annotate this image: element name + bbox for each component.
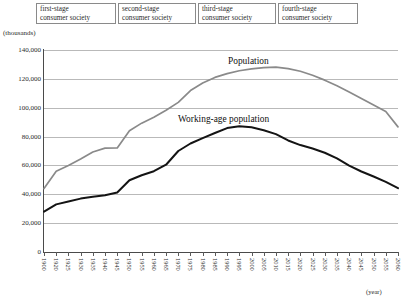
x-tick-label: 1995 [236,258,243,271]
x-tick-label: 1925 [65,258,72,271]
y-tick-label: 60,000 [22,161,41,169]
x-tick-label: 2010 [272,258,279,271]
x-tick [129,252,130,256]
x-tick [68,252,69,256]
x-tick-label: 1935 [89,258,96,271]
x-tick-label: 2045 [358,258,365,271]
x-tick [325,252,326,256]
x-tick [227,252,228,256]
stage-label-line-1: second-stage [122,5,192,14]
x-tick-label: 2035 [333,258,340,271]
x-axis-line [43,252,399,253]
x-tick [386,252,387,256]
series-label-population: Population [228,56,269,66]
x-tick-label: 1950 [126,258,133,271]
x-tick-label: 1975 [187,258,194,271]
x-tick [361,252,362,256]
series-line-population [44,67,398,188]
x-tick-label: 2020 [297,258,304,271]
x-tick-label: 2025 [309,258,316,271]
x-tick-label: 2060 [395,258,402,271]
x-tick [215,252,216,256]
stage-box-second-stage-consumer-society: second-stageconsumer society [118,3,196,24]
stage-box-first-stage-consumer-society: first-stageconsumer society [36,3,116,24]
consumer-society-stage-bar: first-stageconsumer societysecond-stagec… [0,0,409,26]
x-tick [93,252,94,256]
x-tick [252,252,253,256]
x-tick [264,252,265,256]
x-tick-label: 1945 [114,258,121,271]
y-tick-label: 40,000 [22,190,41,198]
x-tick-label: 2040 [346,258,353,271]
y-tick-label: 140,000 [18,46,41,54]
x-tick [117,252,118,256]
x-tick [142,252,143,256]
x-tick [81,252,82,256]
series-container [44,50,398,252]
stage-label-line-1: fourth-stage [282,5,354,14]
x-tick-label: 1900 [41,258,48,271]
series-line-working-age-population [44,126,398,211]
x-tick-label: 2030 [321,258,328,271]
x-tick-label: 1970 [175,258,182,271]
x-tick [337,252,338,256]
x-tick [288,252,289,256]
x-tick-label: 2005 [260,258,267,271]
x-tick [398,252,399,256]
y-tick-label: 0 [38,248,42,256]
x-tick-label: 1990 [224,258,231,271]
y-tick-label: 100,000 [18,104,41,112]
y-axis-labels: 020,00040,00060,00080,000100,000120,0001… [0,0,41,305]
x-tick-label: 2015 [285,258,292,271]
x-tick [349,252,350,256]
x-tick [166,252,167,256]
x-tick-label: 1955 [138,258,145,271]
y-tick-label: 80,000 [22,133,41,141]
stage-box-fourth-stage-consumer-society: fourth-stageconsumer society [278,3,358,24]
stage-label-line-2: consumer society [40,14,112,23]
x-tick [239,252,240,256]
stage-label-line-2: consumer society [202,14,272,23]
x-axis-unit-label: (year) [366,288,382,295]
x-tick-label: 1960 [150,258,157,271]
x-tick [203,252,204,256]
x-tick-label: 2000 [248,258,255,271]
x-tick-label: 1940 [102,258,109,271]
x-tick [300,252,301,256]
x-tick-label: 1985 [211,258,218,271]
x-tick [56,252,57,256]
x-tick-label: 1930 [77,258,84,271]
x-tick-label: 1920 [53,258,60,271]
x-tick [190,252,191,256]
x-tick-label: 2055 [382,258,389,271]
x-tick-label: 1965 [163,258,170,271]
x-tick [154,252,155,256]
stage-label-line-1: first-stage [40,5,112,14]
x-tick-label: 1980 [199,258,206,271]
x-tick [313,252,314,256]
y-tick-label: 20,000 [22,219,41,227]
stage-label-line-1: third-stage [202,5,272,14]
x-tick [276,252,277,256]
series-label-working-age-population: Working-age population [178,114,269,124]
stage-label-line-2: consumer society [122,14,192,23]
x-tick [178,252,179,256]
stage-label-line-2: consumer society [282,14,354,23]
x-tick-label: 2050 [370,258,377,271]
y-tick-label: 120,000 [18,75,41,83]
x-tick [105,252,106,256]
stage-box-third-stage-consumer-society: third-stageconsumer society [198,3,276,24]
x-tick [374,252,375,256]
x-tick [44,252,45,256]
